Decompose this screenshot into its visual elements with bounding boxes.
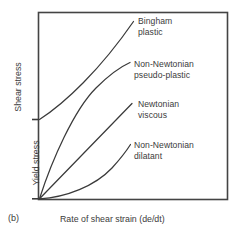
annotation-newtonian-line2: viscous [138, 110, 179, 121]
annotation-newtonian-viscous: Newtonian viscous [138, 99, 179, 120]
annotation-pseudo-line1: Non-Newtonian [134, 59, 194, 70]
rheology-flow-curve-figure: Bingham plastic Non-Newtonian pseudo-pla… [0, 0, 241, 235]
curve-bingham-plastic [40, 22, 134, 120]
annotation-dilatant-line2: dilatant [134, 151, 194, 162]
annotation-pseudo-plastic: Non-Newtonian pseudo-plastic [134, 59, 194, 80]
annotation-dilatant-line1: Non-Newtonian [134, 140, 194, 151]
y-axis-title-yield-stress: Yield stress [31, 123, 41, 203]
annotation-bingham-line2: plastic [138, 27, 172, 38]
annotation-bingham-line1: Bingham [138, 16, 172, 27]
y-axis-title-shear-stress: Shear stress [13, 47, 23, 127]
curve-pseudo-plastic [40, 63, 131, 199]
annotation-newtonian-line1: Newtonian [138, 99, 179, 110]
panel-label: (b) [8, 213, 19, 223]
curve-newtonian-viscous [40, 104, 133, 199]
x-axis-title: Rate of shear strain (de/dt) [60, 214, 165, 224]
annotation-pseudo-line2: pseudo-plastic [134, 70, 194, 81]
annotation-dilatant: Non-Newtonian dilatant [134, 140, 194, 161]
annotation-bingham-plastic: Bingham plastic [138, 16, 172, 37]
